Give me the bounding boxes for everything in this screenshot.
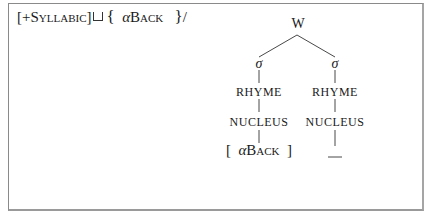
open-brace: { xyxy=(106,7,114,26)
feature-syllabic: Syllabic xyxy=(30,9,86,25)
right-rhyme-node: RHYME xyxy=(312,85,358,100)
rule-frame xyxy=(8,3,424,211)
phonological-rule: [+Syllabic]{ αBack }/ xyxy=(17,7,187,27)
left-rhyme-node: RHYME xyxy=(236,85,282,100)
join-symbol-icon xyxy=(93,12,103,21)
tree-root-word: W xyxy=(291,16,304,32)
left-nucleus-node: NUCLEUS xyxy=(230,115,289,130)
close-brace: } xyxy=(175,7,183,26)
feature-close-bracket: ] xyxy=(287,142,292,158)
feature-back: Back xyxy=(130,9,163,25)
alpha-variable: α xyxy=(122,9,130,25)
feature-open-bracket: [ xyxy=(226,142,231,158)
rule-close-bracket: ] xyxy=(86,9,91,25)
right-nucleus-node: NUCLEUS xyxy=(306,115,365,130)
feature-back-label: Back xyxy=(246,142,279,158)
right-syllable-node: σ xyxy=(332,56,339,72)
left-feature-matrix: [ αBack ] xyxy=(226,142,292,159)
environment-slash: / xyxy=(183,9,187,25)
left-syllable-node: σ xyxy=(256,56,263,72)
